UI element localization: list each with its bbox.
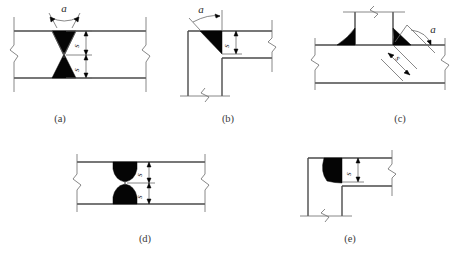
dim-label-s: s [393, 53, 403, 63]
dim-upper-arrow-top [84, 31, 88, 36]
caption-b: (b) [208, 113, 248, 124]
dim-arrow-bottom [234, 49, 238, 54]
vertical-plate-break-symbol [321, 209, 329, 222]
angle-label-a: a [430, 23, 436, 35]
figure-a: a s s [0, 0, 160, 110]
figure-d-drawing: s s [65, 148, 225, 233]
caption-e: (e) [330, 233, 370, 244]
weld-bevel-triangle [200, 31, 222, 54]
figure-c-drawing: a s [295, 0, 464, 110]
dim-ext-line-lower [381, 59, 403, 81]
dim-upper-arrow-bottom [147, 178, 151, 183]
dim-label-s-lower: s [134, 195, 144, 199]
weld-fillet-right [393, 28, 411, 45]
dim-arrow-inner [388, 53, 394, 58]
dim-arrow-top [356, 158, 360, 163]
dim-upper-arrow-top [147, 162, 151, 167]
dim-label-s-upper: s [134, 173, 144, 177]
weld-lower-u [113, 184, 137, 204]
right-break-symbol [142, 45, 150, 62]
angle-arrow [215, 14, 220, 18]
angle-arrow [427, 40, 431, 45]
caption-a: (a) [40, 113, 80, 124]
dim-arrow-outer [404, 70, 410, 75]
dim-lower-arrow-top [147, 183, 151, 188]
figure-e-drawing: s [290, 148, 425, 233]
angle-label-a: a [61, 2, 67, 14]
dim-label-s: s [343, 172, 353, 176]
right-break-symbol [388, 164, 396, 178]
dim-arrow-top [234, 31, 238, 36]
figure-b-drawing: a s [160, 0, 295, 110]
caption-d: (d) [125, 233, 165, 244]
figure-d: s s [65, 148, 225, 233]
dim-lower-arrow-top [84, 55, 88, 60]
figure-b: a s [160, 0, 295, 110]
right-break-symbol [201, 174, 209, 190]
caption-c: (c) [380, 113, 420, 124]
angle-arrow-left [50, 17, 55, 22]
dim-label-s-lower: s [71, 68, 81, 72]
dim-arrow-bottom [356, 177, 360, 182]
dim-upper-arrow-bottom [84, 50, 88, 55]
left-break-symbol [10, 45, 18, 62]
left-break-symbol [311, 55, 319, 70]
angle-label-a: a [198, 3, 204, 15]
dim-label-s-upper: s [71, 44, 81, 48]
left-break-symbol [73, 174, 81, 190]
figure-e: s [290, 148, 425, 233]
dim-lower-arrow-bottom [147, 199, 151, 204]
figure-a-drawing: a s s [0, 0, 160, 110]
weld-j-groove [323, 158, 342, 183]
weld-fillet-left [337, 28, 355, 45]
figure-c: a s [295, 0, 464, 110]
vertical-plate-break-symbol [201, 88, 209, 102]
right-break-symbol [441, 55, 449, 70]
angle-arrow-right [74, 17, 79, 22]
weld-upper-u [113, 162, 137, 182]
dim-label-s: s [221, 44, 231, 48]
right-break-symbol [268, 38, 276, 52]
dim-lower-arrow-bottom [84, 73, 88, 78]
